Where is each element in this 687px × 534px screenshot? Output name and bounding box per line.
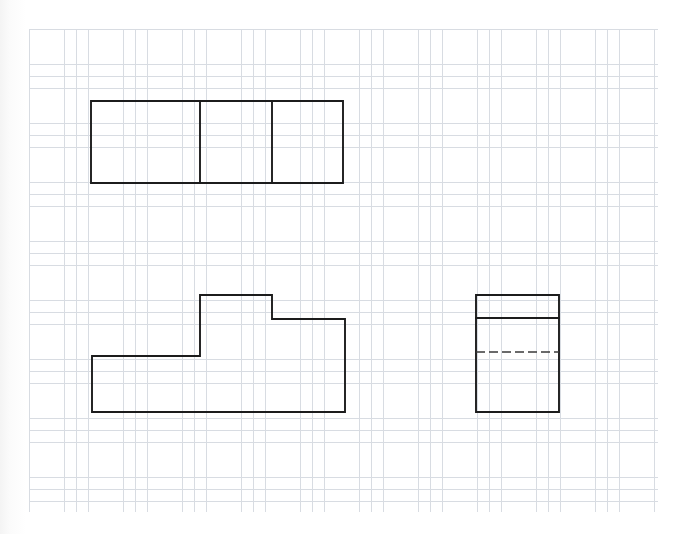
side-view <box>476 295 559 412</box>
front-view <box>92 295 345 412</box>
top-view-outline <box>91 101 343 183</box>
drawing-page <box>0 0 687 534</box>
top-view <box>91 101 343 183</box>
front-view-outline <box>92 295 345 412</box>
side-view-outline <box>476 295 559 412</box>
technical-drawing-canvas <box>0 0 687 534</box>
